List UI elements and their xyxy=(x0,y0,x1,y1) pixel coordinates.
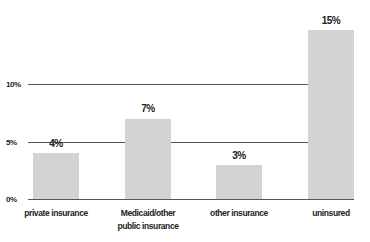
value-label-other-insurance: 3% xyxy=(209,150,269,161)
bar-private-insurance xyxy=(33,153,79,199)
category-label-line: uninsured xyxy=(281,207,370,220)
ytick-5: 5% xyxy=(6,138,26,147)
category-label-uninsured: uninsured xyxy=(281,207,370,220)
ytick-0: 0% xyxy=(6,195,26,204)
value-label-medicaid-public-insurance: 7% xyxy=(118,103,178,114)
gridline-10 xyxy=(28,84,354,85)
bar-uninsured xyxy=(308,30,354,199)
bar-chart: 10% 5% 0% 4% 7% 3% 15% private insurance… xyxy=(0,0,370,242)
category-label-other-insurance: other insurance xyxy=(189,207,289,220)
category-label-line: Medicaid/other xyxy=(98,207,198,220)
category-label-line: private insurance xyxy=(6,207,106,220)
category-label-medicaid-public-insurance: Medicaid/other public insurance xyxy=(98,207,198,233)
category-label-line: other insurance xyxy=(189,207,289,220)
ytick-10: 10% xyxy=(6,80,26,89)
category-label-line: public insurance xyxy=(98,220,198,233)
bar-other-insurance xyxy=(216,165,262,199)
category-label-private-insurance: private insurance xyxy=(6,207,106,220)
value-label-private-insurance: 4% xyxy=(26,138,86,149)
bar-medicaid-public-insurance xyxy=(125,119,171,199)
baseline-0 xyxy=(28,199,354,200)
value-label-uninsured: 15% xyxy=(301,15,361,26)
